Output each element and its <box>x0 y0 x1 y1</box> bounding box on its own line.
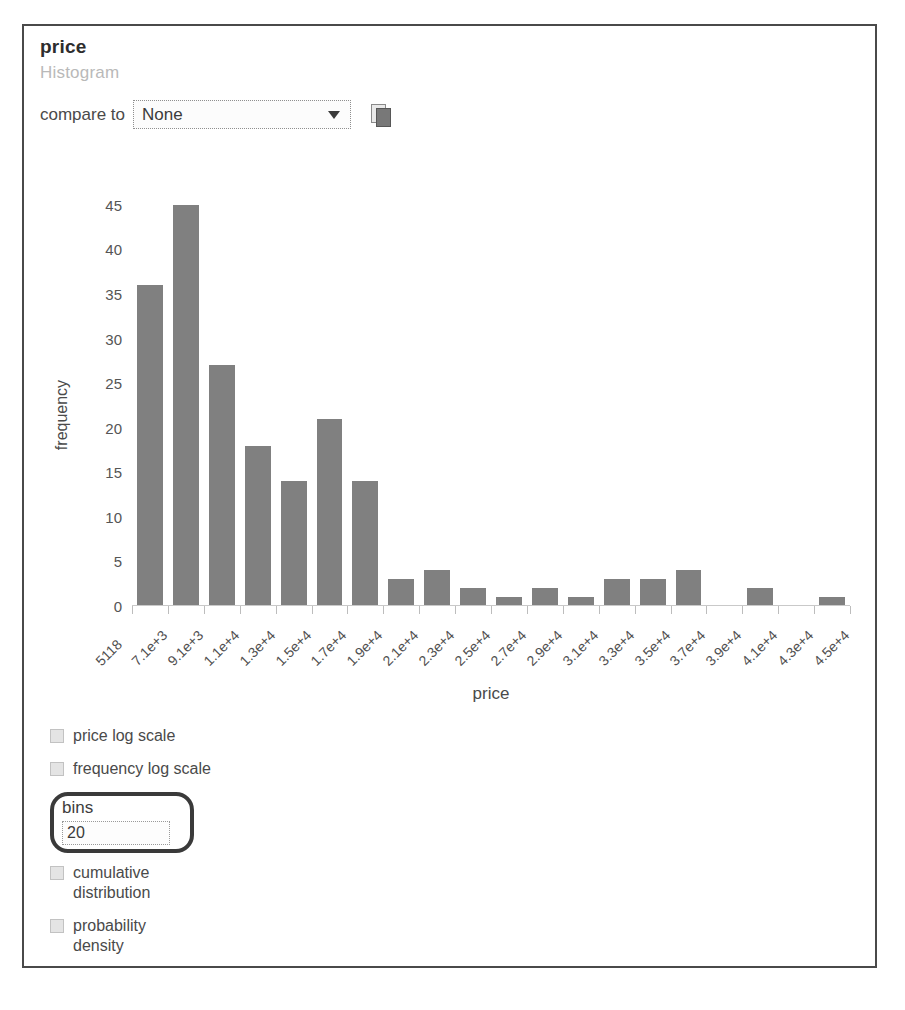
y-axis-tick-label: 20 <box>105 419 122 436</box>
frequency-log-scale-row[interactable]: frequency log scale <box>50 759 350 779</box>
histogram-bar <box>532 588 558 606</box>
y-axis-tick-label: 5 <box>114 553 122 570</box>
bins-group: bins 20 <box>50 792 194 853</box>
histogram-card: price Histogram compare to None frequenc… <box>22 24 877 968</box>
y-axis-tick-label: 30 <box>105 330 122 347</box>
price-log-scale-row[interactable]: price log scale <box>50 726 350 746</box>
bar-slot <box>671 196 707 606</box>
cumulative-distribution-checkbox[interactable] <box>50 866 64 880</box>
histogram-chart: frequency 051015202530354045 51187.1e+39… <box>24 176 875 736</box>
bins-label: bins <box>62 798 184 818</box>
x-axis-tick-label: 1.5e+4 <box>272 627 314 669</box>
y-axis-tick-label: 45 <box>105 196 122 213</box>
y-axis-tick-label: 10 <box>105 508 122 525</box>
bar-slot <box>742 196 778 606</box>
histogram-bar <box>640 579 666 606</box>
frequency-log-scale-label: frequency log scale <box>73 759 211 779</box>
bar-slot <box>814 196 850 606</box>
x-axis-tick-label: 4.1e+4 <box>739 627 781 669</box>
bar-slot <box>276 196 312 606</box>
x-axis-title: price <box>132 684 850 704</box>
bins-input[interactable]: 20 <box>62 821 170 845</box>
y-axis-tick-label: 40 <box>105 241 122 258</box>
x-axis-tick-label: 1.1e+4 <box>200 627 242 669</box>
x-axis-tickmark <box>850 606 851 614</box>
histogram-bar <box>747 588 773 606</box>
plot-area: 051015202530354045 51187.1e+39.1e+31.1e+… <box>132 196 850 606</box>
x-axis-tick-label: 9.1e+3 <box>164 627 206 669</box>
histogram-bar <box>388 579 414 606</box>
panel-subtitle: Histogram <box>40 63 119 83</box>
y-axis-tick-label: 35 <box>105 286 122 303</box>
x-axis-tick-label: 3.1e+4 <box>559 627 601 669</box>
x-axis-tick-label: 7.1e+3 <box>128 627 170 669</box>
bar-slot <box>240 196 276 606</box>
y-axis-tick-label: 25 <box>105 375 122 392</box>
cumulative-distribution-label: cumulative distribution <box>73 863 183 903</box>
chevron-down-icon <box>328 111 340 119</box>
x-axis-tick-label: 2.1e+4 <box>380 627 422 669</box>
x-axis-tick-label: 1.3e+4 <box>236 627 278 669</box>
copy-icon-front-sheet <box>376 108 391 127</box>
y-axis-title: frequency <box>53 355 71 475</box>
histogram-bar <box>245 446 271 606</box>
histogram-bar <box>352 481 378 606</box>
bar-slot <box>347 196 383 606</box>
bar-slot <box>707 196 743 606</box>
bar-slot <box>455 196 491 606</box>
x-axis-tick-label: 1.9e+4 <box>344 627 386 669</box>
x-axis-tick-label: 1.7e+4 <box>308 627 350 669</box>
compare-to-row: compare to None <box>40 100 391 129</box>
histogram-bar <box>137 285 163 606</box>
x-axis-tick-label: 3.5e+4 <box>631 627 673 669</box>
bar-slot <box>635 196 671 606</box>
price-log-scale-checkbox[interactable] <box>50 729 64 743</box>
x-axis-tick-label: 2.7e+4 <box>487 627 529 669</box>
compare-to-select[interactable]: None <box>133 100 351 129</box>
bar-slot <box>419 196 455 606</box>
x-axis-tick-label: 3.7e+4 <box>667 627 709 669</box>
bar-slot <box>599 196 635 606</box>
bar-slot <box>778 196 814 606</box>
x-axis-tick-label: 3.3e+4 <box>595 627 637 669</box>
bar-slot <box>383 196 419 606</box>
histogram-bar <box>317 419 343 606</box>
copy-icon[interactable] <box>371 104 391 126</box>
compare-to-selected-value: None <box>134 105 183 125</box>
histogram-panel-screen: price Histogram compare to None frequenc… <box>0 0 905 1010</box>
x-axis-tick-label: 2.3e+4 <box>415 627 457 669</box>
x-axis-tick-label: 5118 <box>92 636 125 669</box>
x-axis-tick-label: 2.9e+4 <box>523 627 565 669</box>
x-axis-tick-label: 4.5e+4 <box>810 627 852 669</box>
histogram-bar <box>173 205 199 606</box>
histogram-bar <box>209 365 235 606</box>
probability-density-label: probability density <box>73 916 183 956</box>
bar-slot <box>204 196 240 606</box>
cumulative-distribution-row[interactable]: cumulative distribution <box>50 863 350 903</box>
frequency-log-scale-checkbox[interactable] <box>50 762 64 776</box>
y-axis-tick-label: 15 <box>105 464 122 481</box>
probability-density-row[interactable]: probability density <box>50 916 350 956</box>
probability-density-checkbox[interactable] <box>50 919 64 933</box>
histogram-bar <box>604 579 630 606</box>
bar-slot <box>527 196 563 606</box>
bar-slot <box>132 196 168 606</box>
bar-series <box>132 196 850 606</box>
chart-controls: price log scale frequency log scale bins… <box>50 726 350 969</box>
bar-slot <box>563 196 599 606</box>
bar-slot <box>168 196 204 606</box>
histogram-bar <box>460 588 486 606</box>
bar-slot <box>312 196 348 606</box>
y-axis-tick-label: 0 <box>114 598 122 615</box>
page-title: price <box>40 36 86 58</box>
x-axis-tick-label: 2.5e+4 <box>451 627 493 669</box>
x-axis-tick-labels: 51187.1e+39.1e+31.1e+41.3e+41.5e+41.7e+4… <box>132 606 850 666</box>
x-axis-tick-label: 3.9e+4 <box>703 627 745 669</box>
price-log-scale-label: price log scale <box>73 726 175 746</box>
compare-to-label: compare to <box>40 105 125 125</box>
histogram-bar <box>676 570 702 606</box>
histogram-bar <box>281 481 307 606</box>
histogram-bar <box>424 570 450 606</box>
x-axis-tick-label: 4.3e+4 <box>774 627 816 669</box>
bar-slot <box>491 196 527 606</box>
